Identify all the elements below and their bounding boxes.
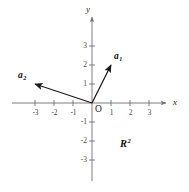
y-tick-label-pos2: 2	[78, 61, 87, 69]
x-tick-label-neg3: -3	[30, 109, 41, 117]
space-label-base: R	[120, 138, 127, 149]
x-tick-label-pos2: 2	[126, 109, 135, 117]
vector-a2-subscript: 2	[23, 75, 26, 81]
x-tick-label-pos1: 1	[107, 109, 116, 117]
space-label-exponent: 2	[128, 137, 131, 144]
y-tick-label-pos3: 3	[78, 42, 87, 50]
x-tick-label-neg1: -1	[68, 109, 79, 117]
vector-a2-label: a2	[18, 71, 26, 81]
origin-label: O	[95, 105, 102, 115]
y-tick-label-neg2: -2	[74, 137, 87, 145]
space-label-r2: R2	[120, 139, 130, 150]
x-axis-label: x	[173, 98, 177, 107]
vector-diagram-figure: x y O -3 -2 -1 1 2 3 3 2 1 -1 -2 -3 a1 a…	[0, 0, 189, 192]
y-tick-label-neg1: -1	[74, 118, 87, 126]
coordinate-plane-svg	[0, 0, 189, 192]
vector-a1-subscript: 1	[119, 56, 122, 62]
x-tick-label-pos3: 3	[145, 109, 154, 117]
vector-a1-label: a1	[114, 52, 122, 62]
y-axis-label: y	[86, 5, 90, 14]
x-tick-label-neg2: -2	[49, 109, 60, 117]
y-tick-label-neg3: -3	[74, 156, 87, 164]
y-tick-label-pos1: 1	[78, 80, 87, 88]
